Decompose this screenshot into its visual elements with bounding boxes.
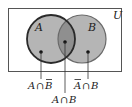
set-a-label: A: [34, 21, 43, 34]
a-only-label: A ∩ B: [27, 80, 52, 92]
intersection-label: A ∩ B: [51, 94, 76, 105]
venn-diagram: U A B A ∩ B A ∩ B A ∩ B: [0, 0, 132, 107]
intersection-label-set-b: B: [68, 94, 76, 105]
intersection-label-set-a: A: [51, 94, 59, 105]
b-only-label-set-b: B: [90, 80, 98, 91]
universe-label: U: [113, 9, 123, 22]
a-only-label-op: ∩: [36, 80, 44, 91]
b-only-label: A ∩ B: [73, 80, 98, 92]
set-b-label: B: [87, 21, 96, 34]
b-only-label-op: ∩: [82, 80, 90, 91]
a-only-label-set-b: B: [44, 80, 52, 91]
a-only-label-set-a: A: [27, 80, 35, 91]
intersection-label-op: ∩: [60, 94, 68, 105]
b-only-label-set-a: A: [73, 80, 81, 91]
